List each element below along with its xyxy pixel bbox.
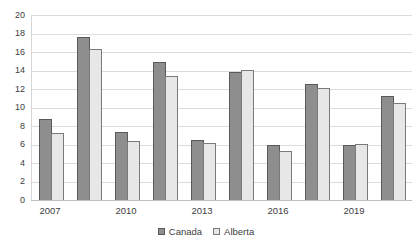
legend: Canada Alberta (0, 226, 412, 237)
bar-alberta (279, 151, 292, 200)
y-axis-tick-label: 8 (0, 121, 25, 132)
bar-group (32, 15, 70, 200)
bar-group (70, 15, 108, 200)
y-axis-tick-label: 16 (0, 47, 25, 58)
y-axis-tick-label: 14 (0, 65, 25, 76)
legend-item-alberta: Alberta (213, 226, 254, 237)
y-axis-tick-label: 18 (0, 28, 25, 39)
bar-groups (32, 15, 412, 200)
bar-alberta (165, 76, 178, 200)
bar-group (222, 15, 260, 200)
bar-alberta (89, 49, 102, 200)
bar-alberta (51, 133, 64, 200)
bar-group (146, 15, 184, 200)
legend-label-alberta: Alberta (224, 226, 254, 237)
bar-alberta (203, 143, 216, 200)
bar-group (298, 15, 336, 200)
legend-label-canada: Canada (169, 226, 202, 237)
bar-group (260, 15, 298, 200)
x-axis-tick-label: 2007 (39, 205, 60, 216)
y-axis-tick-label: 20 (0, 10, 25, 21)
x-axis-tick-label: 2016 (267, 205, 288, 216)
y-axis-tick-label: 12 (0, 84, 25, 95)
bar-group (336, 15, 374, 200)
alberta-swatch-icon (213, 228, 220, 235)
bar-alberta (317, 88, 330, 200)
bar-alberta (393, 103, 406, 200)
y-axis-tick-label: 0 (0, 195, 25, 206)
y-axis-tick-label: 6 (0, 139, 25, 150)
y-axis-tick-label: 2 (0, 176, 25, 187)
bar-alberta (355, 144, 368, 200)
bar-chart: 02468101214161820 20072010201320162019 C… (0, 0, 418, 252)
y-axis-tick-label: 10 (0, 102, 25, 113)
x-axis-tick-label: 2013 (191, 205, 212, 216)
bar-alberta (127, 141, 140, 200)
bar-group (184, 15, 222, 200)
canada-swatch-icon (158, 228, 165, 235)
y-axis-tick-label: 4 (0, 158, 25, 169)
bar-group (108, 15, 146, 200)
x-axis-tick-label: 2010 (115, 205, 136, 216)
plot-area (31, 15, 412, 201)
legend-item-canada: Canada (158, 226, 202, 237)
x-axis-tick-label: 2019 (343, 205, 364, 216)
bar-group (374, 15, 412, 200)
bar-alberta (241, 70, 254, 200)
